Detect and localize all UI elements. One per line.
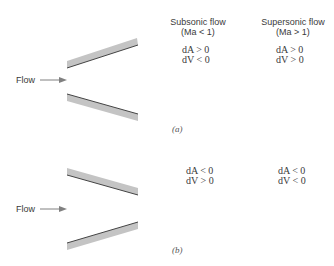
wall-a-lower [67,94,138,121]
wall-b-upper [67,168,138,195]
arrow-head-icon [59,206,67,212]
panel-b-label: (b) [172,245,183,255]
flow-arrow-a [40,77,67,83]
panel-a-subsonic-dV: dV < 0 [182,55,210,65]
arrow-head-icon [59,77,67,83]
panel-a-walls [67,38,138,121]
panel-b-subsonic-dV: dV > 0 [186,176,214,186]
supersonic-header: Supersonic flow (Ma > 1) [257,17,329,37]
wall-a-upper [67,38,138,68]
diagram-graphics [0,0,334,266]
panel-b-walls [67,168,138,250]
supersonic-condition: (Ma > 1) [257,27,329,37]
subsonic-header: Subsonic flow (Ma < 1) [165,17,231,37]
subsonic-condition: (Ma < 1) [165,27,231,37]
panel-b-supersonic-relations: dA < 0 dV < 0 [278,166,306,186]
wall-b-lower [67,222,138,250]
wall-b-lower-edge [67,222,138,243]
flow-label-a: Flow [16,75,35,85]
subsonic-title: Subsonic flow [165,17,231,27]
panel-a-supersonic-dV: dV > 0 [276,55,304,65]
panel-a-label: (a) [172,124,183,134]
nozzle-diffuser-diagram: Subsonic flow (Ma < 1) Supersonic flow (… [0,0,334,266]
wall-a-upper-edge [67,45,138,68]
flow-label-b: Flow [16,204,35,214]
panel-a-subsonic-relations: dA > 0 dV < 0 [182,45,210,65]
supersonic-title: Supersonic flow [257,17,329,27]
flow-arrow-b [40,206,67,212]
panel-b-supersonic-dV: dV < 0 [278,176,306,186]
panel-b-subsonic-relations: dA < 0 dV > 0 [186,166,214,186]
panel-a-supersonic-relations: dA > 0 dV > 0 [276,45,304,65]
